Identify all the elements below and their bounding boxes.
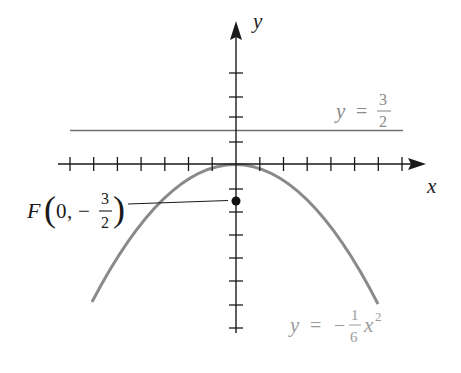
svg-text:y: y bbox=[334, 99, 346, 123]
focus-label: F ( 0 , − 3 2 ) bbox=[26, 189, 125, 231]
directrix-label: y = 3 2 bbox=[334, 91, 391, 130]
y-axis-label: y bbox=[251, 9, 263, 33]
svg-text:2: 2 bbox=[101, 214, 109, 231]
curve-label: y = − 1 6 x 2 bbox=[288, 307, 382, 345]
focus-point bbox=[232, 197, 241, 206]
focus-leader-line bbox=[128, 201, 228, 205]
parabola-curve bbox=[92, 164, 378, 304]
parabola-figure: x y y = 3 2 F ( 0 , − 3 2 ) y = − 1 6 x … bbox=[0, 0, 461, 373]
svg-text:3: 3 bbox=[379, 91, 387, 108]
svg-text:y: y bbox=[288, 313, 300, 337]
svg-text:−: − bbox=[334, 314, 345, 336]
svg-text:2: 2 bbox=[375, 309, 382, 324]
y-axis bbox=[229, 21, 243, 333]
svg-text:=: = bbox=[356, 100, 367, 122]
svg-text:−: − bbox=[78, 199, 90, 223]
svg-text:2: 2 bbox=[379, 113, 387, 130]
svg-text:1: 1 bbox=[351, 307, 359, 323]
svg-text:F: F bbox=[26, 198, 41, 223]
svg-text:6: 6 bbox=[350, 329, 358, 345]
svg-text:,: , bbox=[67, 199, 72, 223]
x-axis-label: x bbox=[426, 174, 437, 198]
svg-text:x: x bbox=[363, 313, 374, 337]
svg-text:3: 3 bbox=[101, 190, 109, 207]
svg-text:): ) bbox=[113, 189, 125, 229]
x-axis bbox=[58, 157, 426, 171]
svg-text:0: 0 bbox=[56, 199, 67, 223]
svg-text:=: = bbox=[310, 314, 321, 336]
svg-text:(: ( bbox=[44, 189, 56, 229]
figure-canvas: x y y = 3 2 F ( 0 , − 3 2 ) y = − 1 6 x … bbox=[0, 0, 461, 373]
